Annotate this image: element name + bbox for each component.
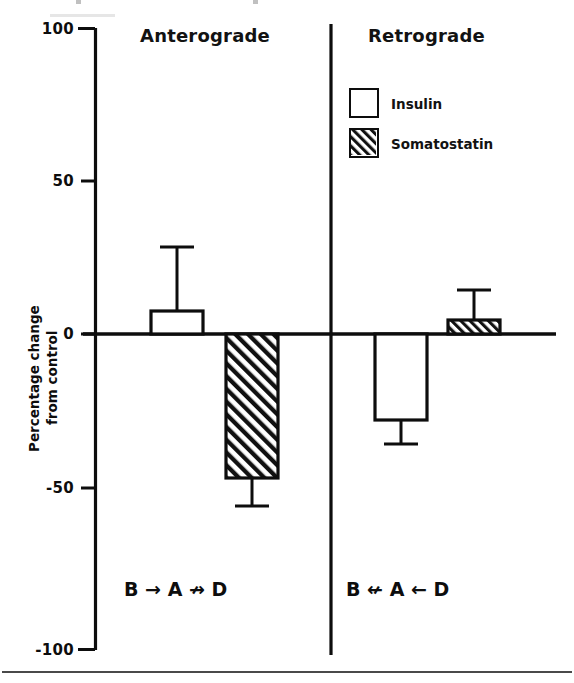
y-axis-title-line1: Percentage change bbox=[26, 305, 43, 452]
legend-swatch-somatostatin bbox=[349, 128, 379, 158]
y-tick-label-neg100: -100 bbox=[16, 641, 74, 659]
y-axis-title-line2: from control bbox=[44, 331, 61, 425]
bar-retrograde-insulin bbox=[375, 334, 427, 444]
y-tick-label-100: 100 bbox=[22, 20, 74, 38]
panel-title-anterograde: Anterograde bbox=[140, 25, 270, 46]
bar-anterograde-somatostatin bbox=[226, 334, 278, 506]
figure-chart: 100 50 0 -50 -100 Percentage change from… bbox=[0, 0, 574, 683]
panel-title-retrograde: Retrograde bbox=[368, 25, 485, 46]
annotation-anterograde: B → A ↛ D bbox=[124, 578, 227, 600]
legend-hatch-fill bbox=[351, 130, 376, 155]
y-tick-label-neg50: -50 bbox=[22, 479, 74, 497]
page-separator-rule bbox=[2, 671, 572, 673]
bar-anterograde-insulin bbox=[151, 247, 203, 334]
legend-label-insulin: Insulin bbox=[391, 96, 442, 112]
plot-svg bbox=[0, 0, 574, 683]
bar-retrograde-somatostatin bbox=[448, 290, 500, 334]
y-tick-label-50: 50 bbox=[22, 172, 74, 190]
legend-label-somatostatin: Somatostatin bbox=[391, 136, 493, 152]
legend-swatch-insulin bbox=[349, 88, 379, 118]
annotation-retrograde: B ↚ A ← D bbox=[346, 578, 449, 600]
